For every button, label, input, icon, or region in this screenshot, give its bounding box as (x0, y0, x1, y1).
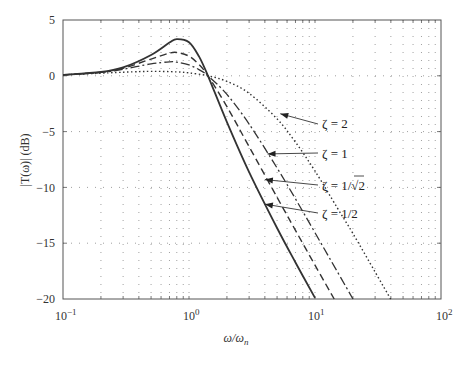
annotation-zeta-inv-sqrt2: ζ = 1/√2 (322, 176, 365, 193)
svg-text:ω/ωn: ω/ωn (224, 331, 249, 347)
plot-frame (63, 20, 441, 299)
annotation-arrows (265, 113, 318, 213)
curve-dashed (63, 52, 334, 299)
y-tick-5: 5 (49, 13, 55, 27)
x-tick-1e-1: 10−1 (55, 307, 77, 323)
y-tick-0: 0 (49, 69, 55, 83)
svg-text:101: 101 (308, 307, 325, 323)
x-tick-1e2: 102 (436, 307, 453, 323)
y-tick-m10: −10 (36, 181, 55, 195)
y-axis-label: |T(ω)| (dB) (18, 133, 32, 186)
annotation-zeta-2: ζ = 2 (322, 116, 348, 131)
svg-text:100: 100 (183, 307, 200, 323)
annotation-zeta-half: ζ = 1/2 (322, 206, 358, 221)
svg-text:ζ = 1/√2: ζ = 1/√2 (322, 178, 365, 193)
svg-text:10−1: 10−1 (55, 307, 77, 323)
y-tick-m5: −5 (42, 125, 55, 139)
y-tick-m20: −20 (36, 292, 55, 306)
curve-solid (63, 39, 315, 298)
arrowhead-icon (268, 151, 276, 157)
x-tick-1e1: 101 (308, 307, 325, 323)
svg-text:102: 102 (436, 307, 453, 323)
grid-lines (63, 20, 441, 299)
arrowhead-icon (280, 113, 289, 119)
x-tick-1e0: 100 (183, 307, 200, 323)
bode-magnitude-chart: 5 0 −5 −10 −15 −20 10−1 100 101 102 ω/ωn… (0, 0, 470, 384)
x-axis-label: ω/ωn (224, 331, 249, 347)
annotation-zeta-1: ζ = 1 (322, 146, 348, 161)
y-tick-m15: −15 (36, 236, 55, 250)
